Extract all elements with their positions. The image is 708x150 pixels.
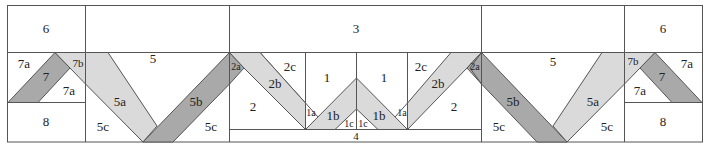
- label-2c-right: 2c: [415, 59, 428, 74]
- label-6-right: 6: [660, 21, 667, 36]
- label-4: 4: [353, 130, 359, 142]
- label-2a-left: 2a: [231, 61, 241, 72]
- label-5b-left: 5b: [190, 94, 203, 109]
- label-7a-top-left: 7a: [18, 56, 31, 71]
- label-6-left: 6: [43, 21, 50, 36]
- label-8-right: 8: [660, 114, 667, 129]
- label-8-left: 8: [43, 114, 50, 129]
- label-5c-left-1: 5c: [97, 119, 110, 134]
- label-5c-right-2: 5c: [601, 119, 614, 134]
- label-7-right: 7: [659, 69, 666, 84]
- label-7-left: 7: [43, 69, 50, 84]
- label-5b-right: 5b: [507, 94, 520, 109]
- label-1-right: 1: [381, 70, 388, 85]
- label-7a-bottom-left: 7a: [63, 83, 76, 98]
- label-2-left: 2: [250, 99, 257, 114]
- label-1a-left: 1a: [306, 107, 316, 118]
- label-5-left: 5: [150, 51, 157, 66]
- label-1c-left: 1c: [344, 118, 354, 129]
- label-5-right: 5: [550, 54, 557, 69]
- label-2-right: 2: [451, 99, 458, 114]
- label-5c-left-2: 5c: [205, 119, 218, 134]
- label-1b-right: 1b: [373, 108, 386, 123]
- label-7a-top-right: 7a: [681, 56, 694, 71]
- label-5a-left: 5a: [114, 94, 127, 109]
- label-1-left: 1: [324, 70, 331, 85]
- quilt-diagram: 6 7a 7b 7 7a 8 5 5a 5b 5c 5c 3 2a 2b 2c …: [0, 0, 708, 150]
- label-7a-bottom-right: 7a: [634, 83, 647, 98]
- label-7b-left: 7b: [73, 57, 85, 69]
- label-1b-left: 1b: [327, 108, 340, 123]
- label-1c-right: 1c: [358, 118, 368, 129]
- label-3: 3: [353, 21, 360, 36]
- label-2b-left: 2b: [269, 76, 282, 91]
- label-2b-right: 2b: [432, 76, 445, 91]
- label-5a-right: 5a: [587, 94, 600, 109]
- label-7b-right: 7b: [628, 55, 640, 67]
- label-5c-right-1: 5c: [493, 119, 506, 134]
- label-2a-right: 2a: [470, 61, 480, 72]
- label-1a-right: 1a: [397, 107, 407, 118]
- label-2c-left: 2c: [284, 59, 297, 74]
